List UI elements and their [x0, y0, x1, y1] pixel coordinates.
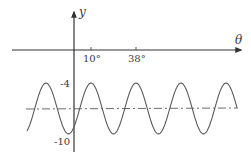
x-tick-label-10: 10°	[83, 53, 101, 64]
x-axis-label: θ	[235, 33, 243, 47]
y-tick-label-neg4: -4	[60, 78, 70, 89]
x-tick-label-38: 38°	[128, 53, 146, 64]
sinusoid-chart: y θ 10° 38° -4 -10	[0, 0, 251, 156]
y-axis-label: y	[78, 5, 86, 19]
y-tick-label-neg10: -10	[54, 136, 70, 147]
